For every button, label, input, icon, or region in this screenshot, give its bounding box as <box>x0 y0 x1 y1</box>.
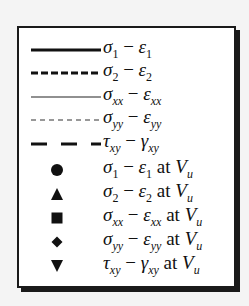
legend-entry-sigma1-marker: σ1 − ε1 at Vu <box>19 159 234 181</box>
legend-entry-sigmayy-line: σyy − εyy <box>19 109 234 131</box>
circle-marker-icon <box>50 163 64 177</box>
legend-label: τxy − γxy <box>103 130 159 152</box>
legend-entry-tauxy-line: τxy − γxy <box>19 133 234 155</box>
legend-entry-tauxy-marker: τxy − γxy at Vu <box>19 255 234 277</box>
legend-label: σyy − εyy <box>103 106 161 128</box>
square-marker-icon <box>50 211 64 225</box>
legend-label: σxx − εxx at Vu <box>103 204 202 226</box>
legend-entry-sigma2-marker: σ2 − ε2 at Vu <box>19 183 234 205</box>
legend-label: σxx − εxx <box>103 83 161 105</box>
triangle-up-marker-icon <box>50 187 64 201</box>
solid-thin-line-icon <box>31 95 101 99</box>
legend-entry-sigmaxx-marker: σxx − εxx at Vu <box>19 207 234 229</box>
diamond-marker-icon <box>50 235 64 249</box>
legend-entry-sigma2-line: σ2 − ε2 <box>19 62 234 84</box>
legend-entry-sigma1-line: σ1 − ε1 <box>19 39 234 61</box>
legend-label: τxy − γxy at Vu <box>103 252 200 274</box>
long-dash-line-icon <box>31 142 101 146</box>
legend-entry-sigmaxx-line: σxx − εxx <box>19 86 234 108</box>
solid-thick-line-icon <box>31 48 101 52</box>
legend-label: σyy − εyy at Vu <box>103 228 202 250</box>
legend-box: σ1 − ε1 σ2 − ε2 σxx − εxx σyy − εyy τxy … <box>17 26 236 288</box>
legend-entry-sigmayy-marker: σyy − εyy at Vu <box>19 231 234 253</box>
triangle-down-marker-icon <box>50 259 64 273</box>
dashed-thin-line-icon <box>31 118 101 122</box>
legend-label: σ2 − ε2 <box>103 59 152 81</box>
legend-label: σ1 − ε1 at Vu <box>103 156 193 178</box>
legend-label: σ1 − ε1 <box>103 36 152 58</box>
dashed-thick-line-icon <box>31 71 101 75</box>
legend-label: σ2 − ε2 at Vu <box>103 180 193 202</box>
